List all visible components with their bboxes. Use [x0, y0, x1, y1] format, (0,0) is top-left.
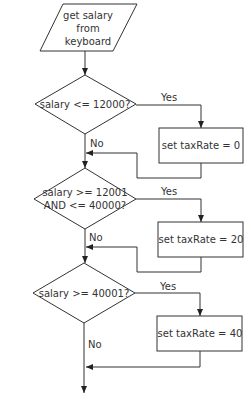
process-2-text: set taxRate = 20 — [159, 234, 244, 245]
process-3-text: set taxRate = 40 — [158, 328, 243, 339]
flowchart: get salary from keyboard salary <= 12000… — [0, 0, 247, 395]
arrow-decision-3-yes — [135, 293, 200, 316]
decision-2-yes-label: Yes — [160, 186, 177, 197]
decision-3: salary >= 40001? — [33, 263, 135, 323]
process-1-text: set taxRate = 0 — [162, 140, 240, 151]
decision-1-no-label: No — [90, 138, 104, 149]
decision-2: salary >= 12001 AND <= 40000? — [34, 168, 136, 229]
process-3: set taxRate = 40 — [157, 316, 242, 351]
decision-3-text: salary >= 40001? — [39, 288, 130, 299]
process-1: set taxRate = 0 — [159, 128, 243, 163]
decision-1: salary <= 12000? — [35, 75, 136, 134]
decision-3-yes-label: Yes — [159, 281, 176, 292]
decision-2-text-line-2: AND <= 40000? — [44, 200, 126, 211]
input-text-line-1: get salary — [63, 10, 113, 21]
arrow-process-3-return — [86, 351, 200, 367]
decision-1-yes-label: Yes — [160, 92, 177, 103]
process-2: set taxRate = 20 — [158, 222, 243, 257]
decision-2-diamond — [34, 168, 136, 229]
decision-3-no-label: No — [88, 339, 102, 350]
arrow-decision-1-yes — [136, 105, 201, 128]
decision-2-text-line-1: salary >= 12001 — [42, 187, 127, 198]
input-get-salary: get salary from keyboard — [40, 4, 137, 51]
input-text-line-2: from — [76, 23, 99, 34]
arrow-decision-2-yes — [136, 199, 201, 222]
decision-2-no-label: No — [89, 232, 103, 243]
input-text-line-3: keyboard — [65, 36, 111, 47]
decision-1-text: salary <= 12000? — [40, 99, 131, 110]
